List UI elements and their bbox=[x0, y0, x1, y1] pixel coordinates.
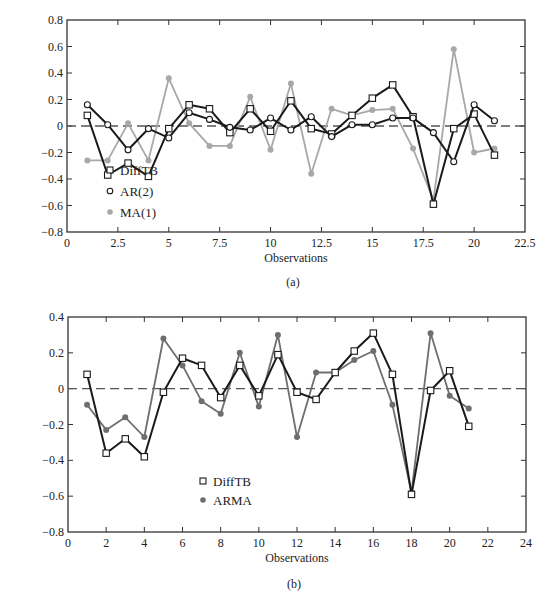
data-point-square bbox=[313, 396, 319, 402]
x-tick-label: 22 bbox=[482, 536, 494, 550]
plot-frame bbox=[68, 317, 526, 532]
y-tick-label: 0 bbox=[58, 382, 64, 396]
data-point-dot bbox=[256, 404, 262, 410]
data-point-circle bbox=[247, 127, 253, 133]
data-point-square bbox=[351, 348, 357, 354]
data-point-square bbox=[430, 201, 436, 207]
data-point-square bbox=[256, 393, 262, 399]
x-tick-label: 17.5 bbox=[413, 236, 434, 250]
data-point-dot bbox=[122, 414, 128, 420]
data-point-circle bbox=[410, 115, 416, 121]
data-point-dot bbox=[125, 120, 131, 126]
data-point-square bbox=[267, 128, 273, 134]
y-tick-label: 0 bbox=[57, 119, 63, 133]
data-point-dot bbox=[428, 330, 434, 336]
data-point-dot bbox=[451, 46, 457, 52]
legend-square-icon bbox=[200, 478, 206, 484]
figure: 02.557.51012.51517.52022.50.80.60.40.20−… bbox=[0, 0, 536, 596]
x-tick-label: 10 bbox=[253, 536, 265, 550]
data-point-dot bbox=[351, 357, 357, 363]
data-point-dot bbox=[329, 106, 335, 112]
data-point-dot bbox=[389, 402, 395, 408]
legend-label: ARMA bbox=[213, 493, 253, 508]
data-point-circle bbox=[430, 130, 436, 136]
x-tick-label: 18 bbox=[406, 536, 418, 550]
data-point-circle bbox=[471, 102, 477, 108]
data-point-square bbox=[141, 454, 147, 460]
x-tick-label: 16 bbox=[367, 536, 379, 550]
x-tick-label: 7.5 bbox=[212, 236, 227, 250]
legend-label: AR(2) bbox=[120, 184, 153, 199]
data-point-dot bbox=[447, 393, 453, 399]
data-point-dot bbox=[288, 81, 294, 87]
data-point-dot bbox=[160, 336, 166, 342]
data-point-dot bbox=[466, 405, 472, 411]
x-tick-label: 10 bbox=[265, 236, 277, 250]
data-point-dot bbox=[313, 370, 319, 376]
data-point-circle bbox=[349, 122, 355, 128]
data-point-square bbox=[84, 371, 90, 377]
data-point-square bbox=[122, 436, 128, 442]
x-tick-label: 4 bbox=[141, 536, 147, 550]
x-tick-label: 2 bbox=[103, 536, 109, 550]
legend-dot-icon bbox=[200, 497, 206, 503]
data-point-circle bbox=[166, 135, 172, 141]
data-point-dot bbox=[84, 402, 90, 408]
data-point-dot bbox=[390, 106, 396, 112]
x-tick-label: 0 bbox=[64, 236, 70, 250]
data-point-circle bbox=[186, 110, 192, 116]
y-tick-label: −0.2 bbox=[42, 418, 64, 432]
y-tick-label: 0.8 bbox=[48, 13, 63, 27]
data-point-square bbox=[179, 355, 185, 361]
x-tick-label: 14 bbox=[329, 536, 341, 550]
data-point-square bbox=[427, 387, 433, 393]
legend-circle-icon bbox=[107, 188, 113, 194]
y-tick-label: 0.6 bbox=[48, 40, 63, 54]
y-tick-label: 0.2 bbox=[49, 346, 64, 360]
data-point-circle bbox=[105, 122, 111, 128]
data-point-circle bbox=[369, 122, 375, 128]
data-point-dot bbox=[369, 107, 375, 113]
y-tick-label: 0.2 bbox=[48, 93, 63, 107]
chart-b: 0246810121416182022240.40.20−0.2−0.4−0.6… bbox=[42, 310, 532, 591]
x-tick-label: 2.5 bbox=[110, 236, 125, 250]
data-point-dot bbox=[247, 94, 253, 100]
data-point-square bbox=[332, 369, 338, 375]
data-point-square bbox=[446, 368, 452, 374]
y-tick-label: −0.6 bbox=[41, 199, 63, 213]
data-point-square bbox=[294, 389, 300, 395]
chart-a: 02.557.51012.51517.52022.50.80.60.40.20−… bbox=[41, 13, 535, 289]
data-point-dot bbox=[227, 143, 233, 149]
legend-dot-icon bbox=[107, 209, 113, 215]
data-point-circle bbox=[268, 115, 274, 121]
x-tick-label: 22.5 bbox=[515, 236, 536, 250]
data-point-dot bbox=[166, 75, 172, 81]
data-point-dot bbox=[294, 434, 300, 440]
legend-label: DiffTB bbox=[213, 474, 251, 489]
x-tick-label: 0 bbox=[65, 536, 71, 550]
data-point-circle bbox=[288, 127, 294, 133]
data-point-square bbox=[160, 389, 166, 395]
legend-label: DiffTB bbox=[120, 163, 158, 178]
x-tick-label: 20 bbox=[444, 536, 456, 550]
legend: DiffTBARMA bbox=[200, 474, 253, 508]
y-tick-label: 0.4 bbox=[49, 310, 64, 324]
data-point-square bbox=[491, 152, 497, 158]
data-point-dot bbox=[84, 157, 90, 163]
data-point-square bbox=[389, 82, 395, 88]
data-point-square bbox=[186, 102, 192, 108]
data-point-circle bbox=[84, 102, 90, 108]
data-point-dot bbox=[199, 398, 205, 404]
x-tick-label: 15 bbox=[366, 236, 378, 250]
data-point-circle bbox=[451, 159, 457, 165]
panel-caption: (b) bbox=[287, 577, 301, 591]
data-point-circle bbox=[206, 116, 212, 122]
data-point-dot bbox=[308, 171, 314, 177]
x-tick-label: 8 bbox=[218, 536, 224, 550]
data-point-dot bbox=[471, 150, 477, 156]
data-point-dot bbox=[103, 427, 109, 433]
legend-label: MA(1) bbox=[120, 205, 156, 220]
x-tick-label: 6 bbox=[180, 536, 186, 550]
data-point-dot bbox=[275, 332, 281, 338]
panel-caption: (a) bbox=[286, 275, 299, 289]
